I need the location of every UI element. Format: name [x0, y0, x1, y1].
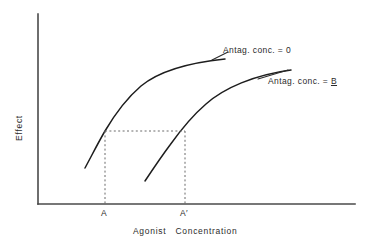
curve-antagonist-zero: [85, 59, 225, 168]
x-axis-title: Agonist Concentration: [133, 226, 237, 236]
x-tick-label-a-prime: A′: [180, 208, 188, 218]
series-label-antagonist-b-emphasis: B: [331, 76, 337, 86]
curve-antagonist-b: [145, 70, 291, 181]
series-label-antagonist-zero: Antag. conc. = 0: [223, 45, 291, 55]
y-axis-title: Effect: [14, 108, 24, 148]
series-label-antagonist-b-prefix: Antag. conc. =: [268, 76, 331, 86]
x-tick-label-a: A: [101, 208, 107, 218]
series-label-antagonist-b: Antag. conc. = B: [268, 76, 337, 86]
dose-response-figure: Antag. conc. = 0 Antag. conc. = B A A′ A…: [0, 0, 370, 250]
